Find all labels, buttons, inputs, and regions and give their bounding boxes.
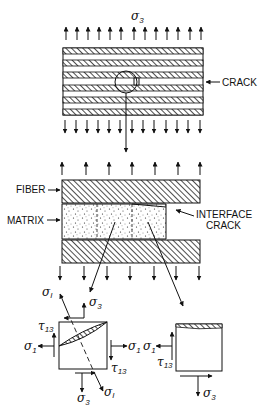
fiber-bottom [62,240,200,263]
sigma3-top-label: σ3 [131,9,144,25]
sigma3-label: σ3 [203,386,216,402]
matrix-label: MATRIX [7,215,44,226]
sigma-I-top-label: σI [42,285,53,300]
tau13-left-label: τ13 [38,319,54,334]
sigma3-element-top-label: σ3 [89,295,102,311]
sigma1-label: σ1 [143,339,156,355]
sigma-I-bottom-label: σI [104,385,115,400]
sigma1-right-label: σ1 [128,339,141,355]
fiber-laminate [63,48,203,152]
crack-label: CRACK [222,77,257,88]
tau13-label: τ13 [157,355,173,370]
interface-crack-label-1: INTERFACE [196,209,252,220]
composite-crack-diagram: σ3 [0,0,265,408]
sigma1-left-label: σ1 [24,339,37,355]
fiber-top [62,180,200,203]
tension-arrows-middle-top [62,162,200,175]
matrix-region [62,204,166,239]
sigma3-element-bottom-label: σ3 [77,391,90,407]
interface-crack-label-2: CRACK [206,220,241,231]
top-view: σ3 [63,9,257,152]
tension-arrows-bottom [65,120,200,133]
element-right: σ1 τ13 σ3 [143,324,222,402]
tension-arrows-top [66,27,201,40]
tau13-right-label: τ13 [111,361,127,376]
fiber-label: FIBER [16,184,45,195]
interface-crack-detail [176,324,222,329]
tension-arrows-middle-bottom [60,266,199,280]
element-left: σI σ3 τ13 σ1 σ1 τ13 σ3 σI [24,285,141,407]
